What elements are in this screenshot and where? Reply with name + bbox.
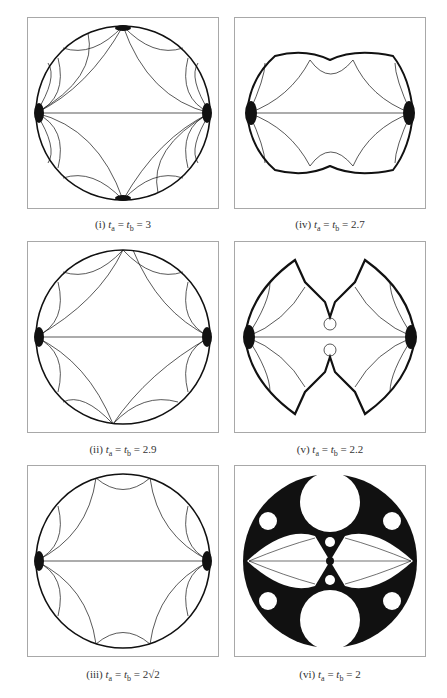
caption-iv: (iv) ta = tb = 2.7 [230, 218, 430, 233]
panel-i [27, 17, 219, 209]
caption-vi: (vi) ta = tb = 2 [230, 668, 430, 683]
fractal-plot-v [235, 242, 425, 432]
disk-plot-i [28, 18, 218, 208]
panel-iv [234, 17, 426, 209]
caption-i: (i) ta = tb = 3 [23, 218, 223, 233]
quasi-rect-plot-iv [235, 18, 425, 208]
panel-iii [27, 465, 219, 657]
caption-v: (v) ta = tb = 2.2 [230, 443, 430, 458]
disk-plot-ii [28, 242, 218, 432]
apollonian-plot-vi [235, 466, 425, 656]
panel-vi [234, 465, 426, 657]
panel-v [234, 241, 426, 433]
panel-ii [27, 241, 219, 433]
disk-plot-iii [28, 466, 218, 656]
caption-ii: (ii) ta = tb = 2.9 [23, 443, 223, 458]
caption-iii: (iii) ta = tb = 2√2 [23, 668, 223, 683]
